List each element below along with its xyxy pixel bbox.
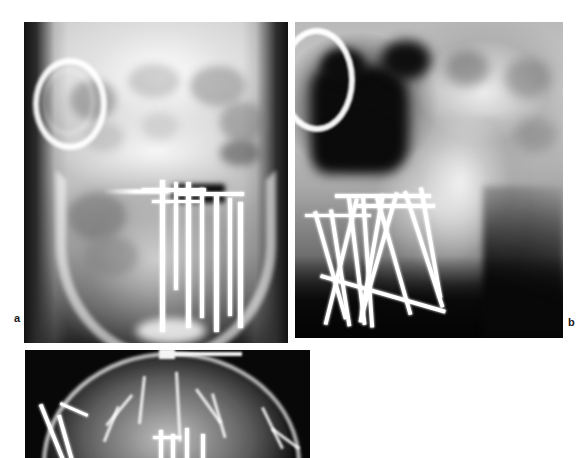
panel-b-image bbox=[295, 22, 563, 338]
panel-c-image bbox=[25, 350, 310, 458]
radiograph-panel-b[interactable] bbox=[295, 22, 563, 338]
radiograph-panel-c[interactable] bbox=[25, 350, 310, 458]
figure-page: · · · bbox=[0, 0, 582, 458]
radiograph-panel-a[interactable] bbox=[24, 22, 288, 343]
panel-a-image bbox=[24, 22, 288, 343]
panel-label-a: a bbox=[14, 313, 20, 324]
panel-label-b: b bbox=[568, 317, 575, 328]
scan-artifact-text: · · · bbox=[503, 1, 564, 8]
